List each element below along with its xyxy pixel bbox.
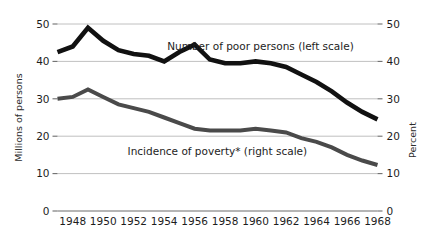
y-axis-left-tick-label-40: 40 xyxy=(36,55,49,67)
x-axis-tick-label-1954: 1954 xyxy=(151,215,178,227)
x-axis-tick-label-1960: 1960 xyxy=(242,215,269,227)
y-axis-left-tick-label-0: 0 xyxy=(43,205,50,217)
x-axis-tick-label-1962: 1962 xyxy=(273,215,300,227)
x-axis-tick-label-1948: 1948 xyxy=(59,215,86,227)
x-axis-tick-label-1964: 1964 xyxy=(303,215,330,227)
x-axis-tick-label-1968: 1968 xyxy=(364,215,391,227)
series-label-incidence-of-poverty: Incidence of poverty* (right scale) xyxy=(128,145,308,157)
y-axis-right-tick-label-20: 20 xyxy=(387,130,400,142)
y-axis-right-tick-label-40: 40 xyxy=(387,55,400,67)
y-axis-left-tick-label-50: 50 xyxy=(36,18,49,30)
y-axis-right-tick-label-50: 50 xyxy=(387,18,400,30)
y-axis-left-title: Millions of persons xyxy=(13,73,24,161)
x-axis-tick-label-1956: 1956 xyxy=(181,215,208,227)
y-axis-left-tick-label-30: 30 xyxy=(36,93,49,105)
x-axis-tick-label-1958: 1958 xyxy=(212,215,239,227)
series-label-number-of-poor: Number of poor persons (left scale) xyxy=(167,40,354,52)
poverty-chart: 0102030405001020304050194819501952195419… xyxy=(0,0,435,240)
y-axis-right-tick-label-10: 10 xyxy=(387,167,400,179)
y-axis-right-tick-label-30: 30 xyxy=(387,93,400,105)
x-axis-tick-label-1966: 1966 xyxy=(334,215,361,227)
y-axis-right-title: Percent xyxy=(407,122,418,158)
x-axis-tick-label-1950: 1950 xyxy=(90,215,117,227)
chart-canvas: 0102030405001020304050194819501952195419… xyxy=(0,0,435,240)
y-axis-left-tick-label-10: 10 xyxy=(36,167,49,179)
y-axis-left-tick-label-20: 20 xyxy=(36,130,49,142)
x-axis-tick-label-1952: 1952 xyxy=(120,215,147,227)
